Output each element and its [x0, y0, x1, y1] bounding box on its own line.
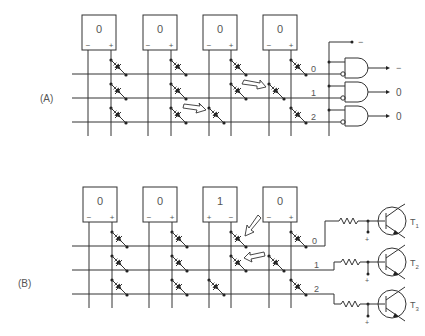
panel-b: (B) 0 − + 0 − + 1 + − [18, 187, 420, 326]
svg-text:0: 0 [217, 23, 223, 35]
svg-text:2: 2 [314, 284, 319, 294]
svg-text:−: − [86, 41, 91, 50]
svg-text:T3: T3 [410, 300, 420, 312]
display-a-4: 0 − + [263, 15, 297, 136]
svg-text:+: + [110, 213, 115, 222]
panel-a: (A) 0 − + 0 − + 0 − + [40, 15, 402, 136]
svg-text:−: − [358, 37, 363, 47]
svg-text:0: 0 [96, 23, 102, 35]
svg-text:+: + [289, 41, 294, 50]
svg-text:0: 0 [277, 23, 283, 35]
svg-text:−: − [146, 41, 151, 50]
svg-text:T2: T2 [410, 258, 420, 270]
display-a-3: 0 − + [203, 15, 237, 136]
svg-text:+: + [207, 213, 212, 222]
display-b-4: 0 − + [263, 187, 297, 308]
svg-text:0: 0 [277, 195, 283, 207]
svg-text:T1: T1 [410, 217, 420, 229]
svg-text:+: + [169, 41, 174, 50]
svg-text:2: 2 [311, 112, 316, 122]
and-gates: − 0 0 [315, 58, 402, 126]
svg-text:+: + [229, 41, 234, 50]
svg-text:+: + [170, 213, 175, 222]
svg-text:0: 0 [311, 64, 316, 74]
svg-text:+: + [365, 236, 369, 243]
svg-text:−: − [87, 213, 92, 222]
svg-text:0: 0 [157, 195, 163, 207]
display-b-2: 0 − + [143, 187, 177, 308]
svg-text:+: + [109, 41, 114, 50]
current-arrow-a-1 [183, 103, 206, 113]
current-arrow-b-1 [245, 215, 261, 236]
svg-text:1: 1 [311, 88, 316, 98]
svg-text:0: 0 [312, 236, 317, 246]
transistor-t3: T3 [368, 287, 420, 321]
display-b-1: 0 − + [83, 187, 117, 308]
svg-text:0: 0 [396, 87, 402, 98]
svg-text:−: − [267, 213, 272, 222]
svg-text:+: + [289, 213, 294, 222]
display-a-2: 0 − + [143, 15, 177, 136]
current-arrow-a-2 [242, 80, 266, 89]
svg-text:−: − [229, 213, 234, 222]
display-a-1: 0 − + [82, 15, 116, 136]
svg-text:0: 0 [396, 111, 402, 122]
display-b-3: 1 + − [203, 187, 237, 308]
panel-b-label: (B) [18, 278, 31, 289]
panel-a-label: (A) [40, 93, 53, 104]
svg-text:0: 0 [97, 195, 103, 207]
svg-text:−: − [267, 41, 272, 50]
svg-text:+: + [365, 277, 369, 284]
current-arrow-b-2 [244, 252, 265, 262]
svg-text:1: 1 [314, 260, 319, 270]
svg-text:0: 0 [157, 23, 163, 35]
resistors [335, 218, 368, 307]
transistor-t1: T1 [368, 204, 420, 238]
supply-taps: + + + [365, 220, 370, 327]
transistor-t2: T2 [368, 245, 420, 279]
svg-text:−: − [396, 63, 401, 73]
svg-text:−: − [147, 213, 152, 222]
svg-text:1: 1 [217, 195, 223, 207]
diode-matrix-diagram: (A) 0 − + 0 − + 0 − + [0, 0, 425, 336]
svg-text:+: + [365, 319, 369, 326]
svg-text:−: − [207, 41, 212, 50]
